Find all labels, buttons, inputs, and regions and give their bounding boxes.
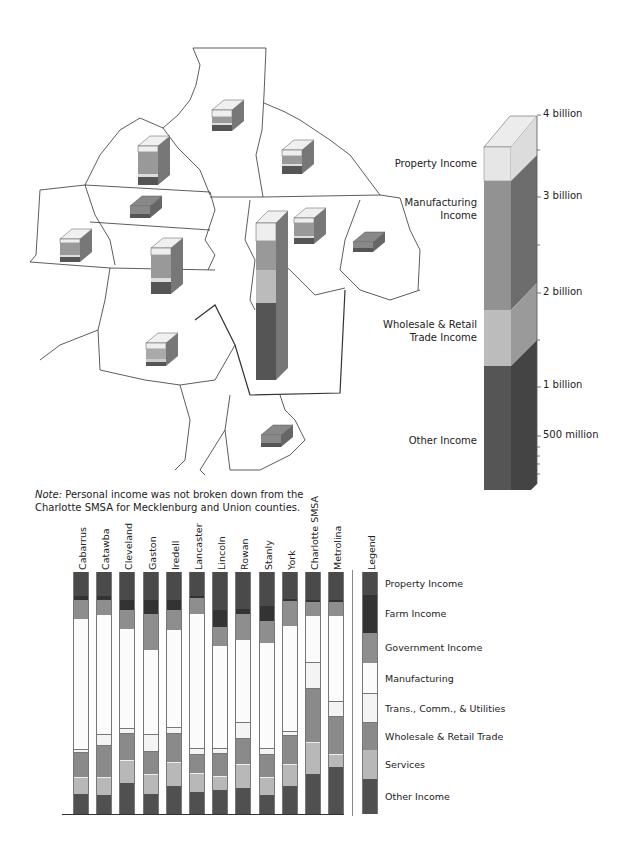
bar-segment-manufacturing [213, 646, 227, 749]
bar-segment-wholesale [190, 755, 204, 773]
column-header: Gaston [141, 520, 161, 570]
bar-segment-trans [236, 723, 250, 739]
bar-segment-property [283, 572, 297, 599]
bar-segment-services [283, 764, 297, 785]
scale-tick-label: 3 billion [543, 190, 582, 201]
column-header: Charlotte SMSA [303, 520, 323, 570]
bar-segment-farm [120, 600, 134, 610]
bar-segment-government [236, 614, 250, 640]
bar-segment-manufacturing [144, 650, 158, 735]
legend-item-label: Wholesale & Retail Trade [385, 731, 503, 742]
legend-item-label: Trans., Comm., & Utilities [385, 703, 505, 714]
bar-segment-services [306, 742, 320, 774]
scale-tick-label: 500 million [543, 429, 599, 440]
bar-segment-services [97, 777, 111, 795]
bar-segment-property [167, 572, 181, 600]
column-header: Catawba [94, 520, 114, 570]
bar-segment-property [306, 572, 320, 600]
bar-segment-services [213, 776, 227, 790]
stacked-bar [189, 572, 205, 814]
legend-item-label: Manufacturing [385, 673, 454, 684]
bar-segment-wholesale [306, 689, 320, 742]
bar-segment-other [144, 794, 158, 814]
bar-segment-services [74, 777, 88, 794]
bar-segment-property [213, 572, 227, 610]
bar-segment-manufacturing [329, 616, 343, 702]
county-map [0, 0, 627, 490]
stacked-bar [96, 572, 112, 814]
bar-segment-government [144, 614, 158, 650]
stacked-bar [235, 572, 251, 814]
bar-segment-trans [97, 735, 111, 746]
bar-segment-manufacturing [306, 616, 320, 662]
bar-segment-property [97, 572, 111, 596]
bar-segment-services [329, 754, 343, 766]
bar-segment-government [329, 602, 343, 616]
bar-segment-wholesale [329, 717, 343, 754]
legend-swatch-wholesale [363, 723, 377, 750]
bar-segment-government [97, 600, 111, 615]
bar-segment-government [74, 600, 88, 619]
column-header: Lancaster [187, 520, 207, 570]
scale-bar-3d [484, 115, 541, 490]
bar-segment-wholesale [167, 734, 181, 762]
bar-segment-farm [260, 606, 274, 621]
column-header: Stanly [257, 520, 277, 570]
bar-segment-government [190, 598, 204, 614]
bar-segment-government [120, 610, 134, 629]
bar-segment-manufacturing [120, 629, 134, 729]
stacked-bar [166, 572, 182, 814]
bar-segment-trans [144, 735, 158, 752]
scale-segment-label: Property Income [395, 157, 477, 170]
legend-swatch-other [363, 779, 377, 814]
bar-segment-manufacturing [74, 619, 88, 750]
bar-segment-wholesale [283, 736, 297, 764]
legend-swatch-trans [363, 694, 377, 723]
bar-segment-other [213, 790, 227, 814]
bar-segment-property [260, 572, 274, 606]
bar-segment-wholesale [144, 752, 158, 774]
bar-segment-property [329, 572, 343, 600]
bar-segment-wholesale [236, 739, 250, 763]
bar-segment-manufacturing [283, 626, 297, 732]
bar-segment-trans [329, 702, 343, 717]
bar-segment-property [236, 572, 250, 609]
scale-tick-label: 4 billion [543, 108, 582, 119]
bar-segment-wholesale [120, 734, 134, 760]
legend-item-label: Property Income [385, 578, 463, 589]
bar-segment-services [120, 760, 134, 783]
legend-swatch-government [363, 633, 377, 663]
bar-segment-property [120, 572, 134, 600]
stacked-bar [305, 572, 321, 814]
bar-segment-farm [167, 600, 181, 610]
scale-segment-label: Wholesale & RetailTrade Income [383, 318, 477, 344]
legend-swatch-column [362, 572, 378, 814]
bar-segment-trans [306, 663, 320, 689]
bar-segment-services [260, 777, 274, 795]
bar-segment-other [190, 792, 204, 814]
bar-segment-manufacturing [260, 643, 274, 750]
bar-segment-manufacturing [236, 640, 250, 723]
bar-segment-wholesale [260, 755, 274, 777]
bar-segment-services [167, 762, 181, 786]
bar-segment-other [97, 795, 111, 814]
legend-title: Legend [360, 520, 380, 570]
bar-segment-other [236, 788, 250, 814]
bar-segment-other [74, 794, 88, 814]
bar-segment-other [260, 795, 274, 814]
bar-segment-government [306, 602, 320, 616]
bar-segment-wholesale [213, 754, 227, 776]
stacked-bar [143, 572, 159, 814]
bar-segment-other [167, 786, 181, 814]
bar-segment-property [190, 572, 204, 596]
bar-segment-farm [213, 610, 227, 627]
bar-segment-manufacturing [97, 615, 111, 735]
bar-segment-manufacturing [190, 614, 204, 749]
bar-segment-other [306, 774, 320, 813]
legend-swatch-manufacturing [363, 663, 377, 694]
stacked-bar [212, 572, 228, 814]
column-header: York [280, 520, 300, 570]
bar-segment-services [236, 764, 250, 788]
legend-swatch-services [363, 750, 377, 779]
bar-segment-services [144, 774, 158, 794]
